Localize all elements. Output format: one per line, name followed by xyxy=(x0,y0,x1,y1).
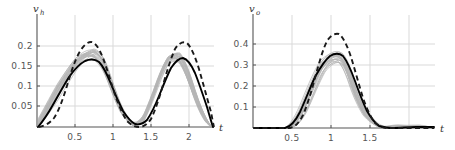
xlabel-t: t xyxy=(219,122,224,133)
ytick-label: 0.15 xyxy=(11,61,33,71)
xtick-label: 1 xyxy=(328,133,334,143)
xtick-label: 0.5 xyxy=(67,132,83,142)
xtick-labels-vh: 0.5 1 1.5 2 xyxy=(67,132,192,142)
xtick-label: 1.5 xyxy=(143,132,159,142)
xlabel-t: t xyxy=(440,123,445,134)
ytick-label: 0.4 xyxy=(233,39,249,49)
ytick-label: 0.1 xyxy=(233,102,249,112)
ytick-labels-vo: 0.4 0.3 0.2 0.1 xyxy=(233,39,249,112)
chart-panel-vo: 0.4 0.3 0.2 0.1 0.5 1 1.5 v o t xyxy=(228,0,455,150)
xtick-label: 2 xyxy=(186,132,192,142)
xtick-label: 0.5 xyxy=(284,133,300,143)
ytick-label: 0.1 xyxy=(17,81,33,91)
series-dashed-reference-vo xyxy=(254,34,434,128)
ytick-labels-vh: 0.2 0.15 0.1 0.05 xyxy=(11,41,33,111)
chart-panel-vh: 0.2 0.15 0.1 0.05 0.5 1 1.5 2 v h t xyxy=(0,0,228,150)
ytick-label: 0.2 xyxy=(17,41,33,51)
ytick-label: 0.2 xyxy=(233,81,249,91)
ylabel-base: v xyxy=(33,3,39,14)
figure-two-panel-velocity-profiles: 0.2 0.15 0.1 0.05 0.5 1 1.5 2 v h t xyxy=(0,0,455,150)
ytick-label: 0.05 xyxy=(11,101,33,111)
ylabel-vo: v o xyxy=(249,3,260,17)
ylabel-subscript: o xyxy=(256,9,260,17)
chart-svg-vh: 0.2 0.15 0.1 0.05 0.5 1 1.5 2 v h t xyxy=(0,0,228,150)
chart-svg-vo: 0.4 0.3 0.2 0.1 0.5 1 1.5 v o t xyxy=(228,0,455,150)
ytick-label: 0.3 xyxy=(233,60,249,70)
sample-bundle-vo xyxy=(254,51,434,128)
ylabel-vh: v h xyxy=(33,3,45,17)
ylabel-subscript: h xyxy=(40,9,45,17)
xtick-labels-vo: 0.5 1 1.5 xyxy=(284,133,378,143)
xtick-label: 1.5 xyxy=(362,133,378,143)
ylabel-base: v xyxy=(249,3,255,14)
xtick-label: 1 xyxy=(110,132,116,142)
